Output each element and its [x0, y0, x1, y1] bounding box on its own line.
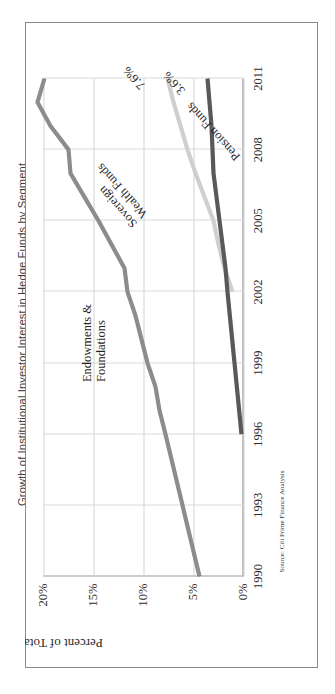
x-axis-tick-4: 2002: [250, 279, 265, 304]
series-line-endowments-foundations: [37, 78, 199, 576]
x-axis-tick-2: 1996: [250, 421, 265, 446]
y-axis-tick-3: 15%: [86, 583, 101, 606]
x-axis-tick-1: 1993: [250, 492, 265, 517]
plot-area: 0%5%10%15%20%199019931996199920022005200…: [43, 78, 243, 576]
y-axis-tick-1: 5%: [186, 583, 201, 600]
y-axis-tick-4: 20%: [36, 583, 51, 606]
x-axis-tick-7: 2011: [250, 66, 265, 91]
y-axis-label: Percent of Total Assets: [25, 634, 143, 650]
y-axis-tick-2: 10%: [136, 583, 151, 606]
y-axis-tick-0: 0%: [236, 583, 251, 600]
x-axis-tick-5: 2005: [250, 208, 265, 233]
x-axis-tick-3: 1999: [250, 350, 265, 375]
endowments-series-label: Endowments &Foundations: [79, 303, 107, 381]
series-layer: [43, 78, 243, 576]
x-axis-tick-0: 1990: [250, 564, 265, 589]
plot-stage: Percent of Total Assets Source: Citi Pri…: [25, 22, 318, 668]
source-note: Source: Citi Prime Finance Analysis: [277, 470, 285, 572]
chart-canvas: Percent of Total Assets Source: Citi Pri…: [25, 22, 318, 668]
x-axis-tick-6: 2008: [250, 137, 265, 162]
